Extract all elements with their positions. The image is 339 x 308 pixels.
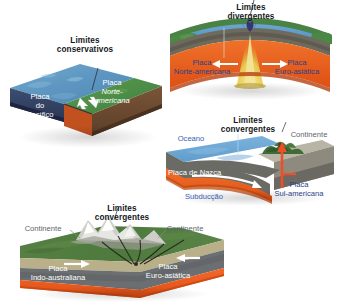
convergent-continent-continent-block: Limites convergentes Continente Continen… [14, 206, 230, 302]
plate-label-na-line2: Norte-americana [161, 67, 243, 76]
divergent-boundary-block: Limites divergentes Placa Norte-american… [162, 4, 338, 104]
label-continent-right: Continente [154, 224, 216, 233]
plate-label-indo-australian: Placa Indo-australiana [20, 264, 96, 282]
plate-label-sa-line2: Sul-americana [264, 189, 334, 198]
plate-label-ea-line1: Placa [258, 58, 336, 67]
title-line-1: Limites [202, 116, 294, 125]
plate-label-pacific-line2: do [14, 101, 66, 110]
title-line-2: convergentes [76, 213, 168, 222]
label-continent: Continente [280, 130, 338, 139]
title-line-2: conservativos [30, 45, 140, 54]
plate-label-north-american: Placa Norte- americana [82, 78, 142, 106]
plate-label-euro-asian: Placa Euro-asiática [130, 262, 206, 280]
label-continent-left: Continente [12, 224, 74, 233]
conservative-title: Limites conservativos [30, 36, 140, 55]
title-line-1: Limites [30, 36, 140, 45]
divergence-arrows [162, 4, 338, 104]
plate-label-na-line3: americana [82, 96, 142, 105]
plate-label-ea-line1: Placa [130, 262, 206, 271]
plate-label-euro-asian: Placa Euro-asiática [258, 58, 336, 76]
label-ocean: Oceano [166, 134, 216, 143]
plate-label-na-line2: Norte- [82, 87, 142, 96]
plate-label-na-line1: Placa [161, 58, 243, 67]
plate-label-nazca: Placa de Nazca [162, 168, 246, 177]
plate-label-pacific: Placa do Pacífico [14, 92, 66, 120]
convergent-continent-title: Limites convergentes [76, 204, 168, 223]
plate-label-south-american: Placa Sul-americana [264, 180, 334, 198]
title-line-1: Limites [76, 204, 168, 213]
plate-label-pacific-line1: Placa [14, 92, 66, 101]
block-shadow [18, 126, 158, 148]
conservative-boundary-block: Limites conservativos Placa do Pacífico … [6, 40, 166, 150]
plate-label-ea-line2: Euro-asiática [258, 67, 336, 76]
plate-label-ea-line2: Euro-asiática [130, 271, 206, 280]
plate-label-ia-line2: Indo-australiana [20, 273, 96, 282]
plate-label-sa-line1: Placa [264, 180, 334, 189]
figure-canvas: Limites conservativos Placa do Pacífico … [0, 0, 339, 308]
plate-label-north-american: Placa Norte-americana [161, 58, 243, 76]
label-subduction: Subducção [174, 192, 234, 201]
plate-label-na-line1: Placa [82, 78, 142, 87]
convergent-ocean-continent-block: Limites convergentes Oceano Continente P… [162, 118, 338, 208]
plate-label-ia-line1: Placa [20, 264, 96, 273]
plate-label-pacific-line3: Pacífico [14, 110, 66, 119]
block-shadow [30, 286, 210, 302]
